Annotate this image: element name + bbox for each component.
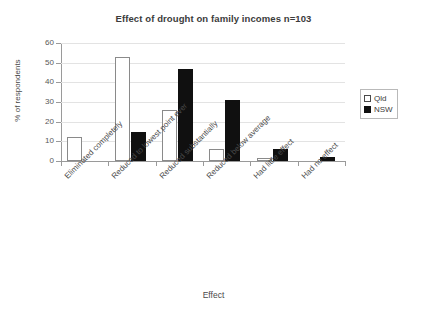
gridline bbox=[61, 102, 345, 103]
legend-swatch-filled-square-icon bbox=[364, 106, 371, 113]
legend-label: NSW bbox=[374, 105, 393, 114]
x-axis-tick bbox=[61, 161, 62, 166]
y-axis-tick-labels: 0102030405060 bbox=[26, 0, 54, 317]
y-axis-tick-label: 60 bbox=[28, 39, 54, 47]
x-axis-tick bbox=[298, 161, 299, 166]
legend-swatch-open-square-icon bbox=[364, 95, 371, 102]
x-axis-tick bbox=[250, 161, 251, 166]
y-axis-tick bbox=[56, 43, 61, 44]
legend-item-nsw[interactable]: NSW bbox=[364, 104, 393, 115]
y-axis-tick-label: 40 bbox=[28, 78, 54, 86]
x-axis-tick bbox=[345, 161, 346, 166]
x-axis-tick bbox=[203, 161, 204, 166]
x-axis-tick bbox=[156, 161, 157, 166]
y-axis-tick bbox=[56, 63, 61, 64]
bar-qld-2 bbox=[115, 57, 130, 161]
legend: Qld NSW bbox=[360, 89, 398, 119]
legend-label: Qld bbox=[374, 94, 386, 103]
y-axis-title: % of respondents bbox=[13, 41, 22, 141]
gridline bbox=[61, 63, 345, 64]
y-axis-tick-label: 10 bbox=[28, 137, 54, 145]
y-axis-tick-label: 20 bbox=[28, 118, 54, 126]
y-axis-tick bbox=[56, 102, 61, 103]
y-axis-tick-label: 50 bbox=[28, 59, 54, 67]
y-axis-tick bbox=[56, 141, 61, 142]
y-axis-tick-label: 30 bbox=[28, 98, 54, 106]
gridline bbox=[61, 122, 345, 123]
y-axis-tick-label: 0 bbox=[28, 157, 54, 165]
gridline bbox=[61, 82, 345, 83]
gridline bbox=[61, 43, 345, 44]
y-axis-tick bbox=[56, 161, 61, 162]
y-axis-tick bbox=[56, 122, 61, 123]
chart-title: Effect of drought on family incomes n=10… bbox=[0, 13, 427, 24]
x-axis-title: Effect bbox=[0, 290, 427, 300]
x-axis-tick bbox=[108, 161, 109, 166]
y-axis-tick bbox=[56, 82, 61, 83]
bar-chart: Effect of drought on family incomes n=10… bbox=[0, 0, 427, 317]
legend-item-qld[interactable]: Qld bbox=[364, 93, 393, 104]
